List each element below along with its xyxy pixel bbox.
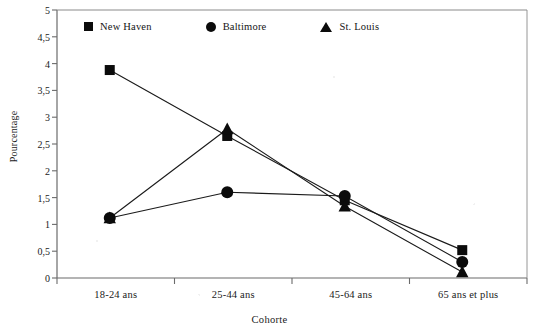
legend-item-triangle: St. Louis — [320, 21, 379, 32]
axis-lines — [57, 10, 527, 278]
y-axis-ticks — [52, 10, 57, 278]
y-tick-label: 3,5 — [6, 85, 50, 96]
chart-figure: Pourcentage 00,511,522,533,544,55 18-24 … — [0, 0, 539, 335]
x-axis-title: Cohorte — [0, 314, 539, 325]
legend-item-square: New Haven — [84, 21, 152, 32]
y-tick-label: 0,5 — [6, 246, 50, 257]
plot-area — [0, 0, 539, 335]
data-point-marker-triangle — [221, 122, 233, 134]
legend-item-label: New Haven — [100, 21, 152, 32]
data-point-marker-circle — [221, 186, 233, 198]
chart-legend: New HavenBaltimoreSt. Louis — [84, 21, 379, 32]
y-tick-label: 3 — [6, 112, 50, 123]
y-tick-label: 5 — [6, 5, 50, 16]
legend-item-label: St. Louis — [339, 21, 379, 32]
x-tick-label: 65 ans et plus — [438, 289, 498, 300]
data-point-marker-square — [457, 245, 467, 255]
circle-marker-icon — [206, 22, 216, 32]
legend-item-circle: Baltimore — [206, 21, 267, 32]
x-tick-label: 25-44 ans — [212, 289, 255, 300]
y-tick-label: 1,5 — [6, 192, 50, 203]
x-axis-ticks — [57, 278, 527, 284]
y-tick-label: 2 — [6, 165, 50, 176]
triangle-marker-icon — [320, 22, 332, 32]
y-tick-label: 4,5 — [6, 31, 50, 42]
x-tick-label: 18-24 ans — [94, 289, 137, 300]
data-point-marker-square — [105, 65, 115, 75]
y-tick-label: 2,5 — [6, 139, 50, 150]
series-lines — [110, 70, 463, 272]
square-marker-icon — [84, 22, 93, 31]
data-point-marker-triangle — [456, 266, 468, 278]
x-tick-label: 45-64 ans — [329, 289, 372, 300]
y-tick-label: 4 — [6, 58, 50, 69]
legend-item-label: Baltimore — [223, 21, 267, 32]
y-tick-label: 1 — [6, 219, 50, 230]
y-tick-label: 0 — [6, 273, 50, 284]
